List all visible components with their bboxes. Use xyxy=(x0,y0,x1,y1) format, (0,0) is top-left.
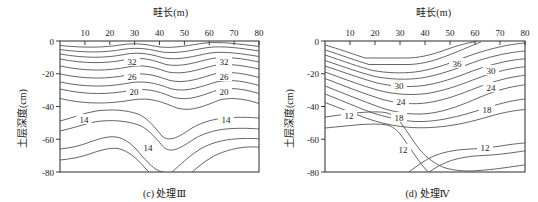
y-tick-labels-d: 0 -20 -40 -60 -80 xyxy=(307,37,320,178)
svg-text:24: 24 xyxy=(487,83,497,93)
svg-text:0: 0 xyxy=(315,37,320,47)
svg-text:-40: -40 xyxy=(42,102,54,112)
y-tick-labels-c: 0 -20 -40 -60 -80 xyxy=(42,37,55,178)
svg-text:-60: -60 xyxy=(307,135,319,145)
contour-labels-d: 36 30 24 18 12 30 24 12 18 12 xyxy=(341,58,499,155)
svg-text:-60: -60 xyxy=(42,135,54,145)
svg-text:12: 12 xyxy=(345,111,354,121)
svg-text:30: 30 xyxy=(130,28,140,38)
svg-text:20: 20 xyxy=(130,87,140,97)
panel-c: 畦长(m) 土层深度(cm) 10 20 30 40 50 xyxy=(0,0,269,202)
svg-text:-20: -20 xyxy=(307,69,319,79)
x-tick-labels-d: 10 20 30 40 50 60 70 80 xyxy=(346,28,531,38)
svg-text:14: 14 xyxy=(80,115,90,125)
svg-text:14: 14 xyxy=(222,115,232,125)
panel-c-caption: (c) 处理Ⅲ xyxy=(0,185,299,200)
panel-d: 畦长(m) 土层深度(cm) 10 20 30 40 50 60 xyxy=(269,0,538,202)
contour-plot-d: 10 20 30 40 50 60 70 80 0 -20 -40 -60 xyxy=(269,0,538,202)
y-tick-marks-d xyxy=(321,41,325,172)
svg-text:32: 32 xyxy=(128,57,137,67)
svg-text:30: 30 xyxy=(487,66,497,76)
svg-text:0: 0 xyxy=(50,37,55,47)
svg-text:26: 26 xyxy=(128,72,138,82)
x-tick-labels-c: 10 20 30 40 50 60 70 80 xyxy=(80,28,264,38)
svg-text:20: 20 xyxy=(105,28,115,38)
svg-text:30: 30 xyxy=(395,81,405,91)
svg-text:80: 80 xyxy=(521,28,531,38)
x-tick-marks-d xyxy=(350,41,525,45)
svg-text:70: 70 xyxy=(230,28,240,38)
svg-text:70: 70 xyxy=(496,28,506,38)
svg-text:-40: -40 xyxy=(307,102,319,112)
svg-text:32: 32 xyxy=(220,57,229,67)
svg-text:-20: -20 xyxy=(42,69,54,79)
panel-d-caption: (d) 处理Ⅳ xyxy=(269,185,538,200)
svg-text:50: 50 xyxy=(180,28,190,38)
svg-text:50: 50 xyxy=(446,28,456,38)
contour-plot-c: 10 20 30 40 50 60 70 80 0 -20 -40 xyxy=(0,0,269,202)
svg-text:10: 10 xyxy=(80,28,90,38)
svg-text:80: 80 xyxy=(255,28,265,38)
svg-text:40: 40 xyxy=(421,28,431,38)
svg-text:60: 60 xyxy=(205,28,215,38)
svg-text:18: 18 xyxy=(395,113,405,123)
svg-text:12: 12 xyxy=(481,143,490,153)
svg-text:14: 14 xyxy=(144,143,154,153)
svg-text:36: 36 xyxy=(453,59,463,69)
svg-text:40: 40 xyxy=(155,28,165,38)
x-tick-marks-c xyxy=(85,41,259,45)
svg-text:30: 30 xyxy=(396,28,406,38)
svg-text:18: 18 xyxy=(483,105,493,115)
svg-text:-80: -80 xyxy=(307,168,319,178)
svg-text:20: 20 xyxy=(371,28,381,38)
y-tick-marks-c xyxy=(56,41,60,172)
svg-text:10: 10 xyxy=(346,28,356,38)
svg-text:-80: -80 xyxy=(42,168,54,178)
svg-text:26: 26 xyxy=(220,72,230,82)
svg-text:60: 60 xyxy=(471,28,481,38)
svg-text:12: 12 xyxy=(399,145,408,155)
svg-text:24: 24 xyxy=(397,97,407,107)
svg-text:20: 20 xyxy=(220,87,230,97)
figure-container: 畦长(m) 土层深度(cm) 10 20 30 40 50 xyxy=(0,0,538,202)
